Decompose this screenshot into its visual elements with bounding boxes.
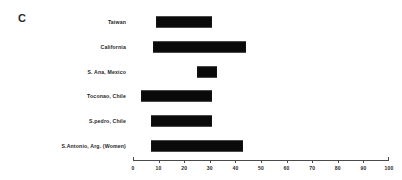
x-tick-label: 10 (156, 165, 162, 171)
x-tick-label: 90 (360, 165, 366, 171)
x-tick-label: 70 (309, 165, 315, 171)
x-tick (287, 160, 288, 163)
range-bar (197, 66, 217, 77)
x-tick (261, 160, 262, 163)
x-tick-label: 40 (232, 165, 238, 171)
x-tick-label: 100 (385, 165, 394, 171)
bar-row: Taiwan (133, 10, 389, 35)
x-tick (235, 160, 236, 163)
panel-letter: C (18, 12, 26, 24)
category-label: Toconao, Chile (87, 93, 126, 99)
x-tick-label: 20 (181, 165, 187, 171)
x-tick (363, 160, 364, 163)
plot-area: TaiwanCaliforniaS. Ana, MexicoToconao, C… (133, 10, 389, 158)
range-bar (151, 115, 212, 126)
x-tick (159, 160, 160, 163)
bar-row: S.Antonio, Arg. (Women) (133, 133, 389, 158)
range-bar (156, 17, 212, 28)
bar-row: California (133, 35, 389, 60)
category-label: S.pedro, Chile (89, 118, 126, 124)
category-label: Taiwan (108, 19, 126, 25)
bar-row: S. Ana, Mexico (133, 59, 389, 84)
category-label: California (101, 44, 126, 50)
x-tick-label: 50 (258, 165, 264, 171)
chart-figure: C TaiwanCaliforniaS. Ana, MexicoToconao,… (0, 0, 402, 180)
bar-row: S.pedro, Chile (133, 109, 389, 134)
x-tick-label: 0 (132, 165, 135, 171)
category-label: S.Antonio, Arg. (Women) (61, 143, 126, 149)
x-tick-label: 60 (284, 165, 290, 171)
range-bar (141, 91, 213, 102)
range-bar (151, 140, 243, 151)
x-tick-label: 80 (335, 165, 341, 171)
x-tick (338, 160, 339, 163)
x-tick (312, 160, 313, 163)
category-label: S. Ana, Mexico (87, 69, 126, 75)
x-tick (184, 160, 185, 163)
bar-row: Toconao, Chile (133, 84, 389, 109)
range-bar (153, 41, 245, 52)
x-tick-label: 30 (207, 165, 213, 171)
x-tick (210, 160, 211, 163)
